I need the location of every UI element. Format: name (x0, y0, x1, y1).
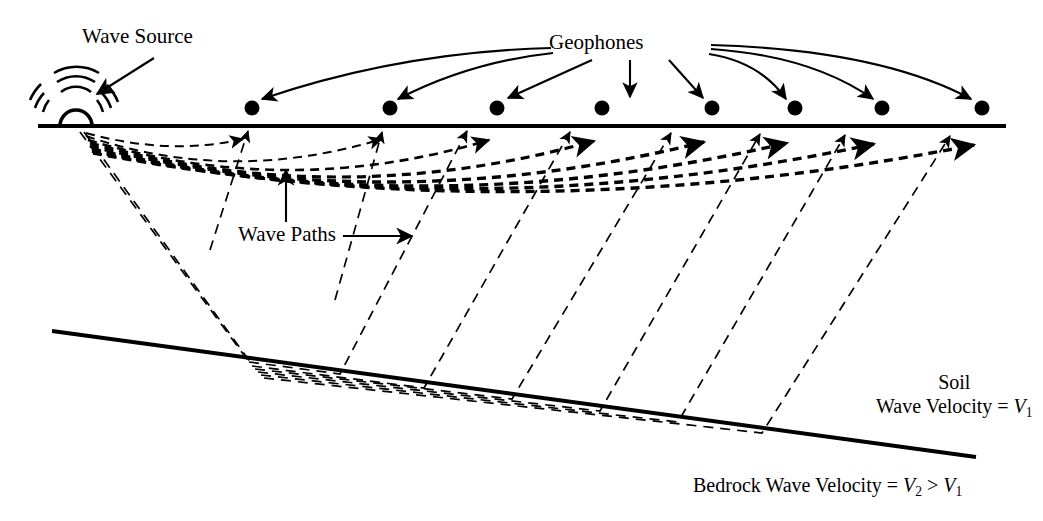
direct-wave-path (86, 133, 243, 146)
soil-velocity-text: Wave Velocity = (876, 395, 1014, 417)
geophone-dot (875, 101, 890, 116)
wave-source-icon (30, 67, 118, 126)
geophone-dot (245, 101, 260, 116)
bedrock-velocity-subscript-1: 1 (956, 484, 963, 499)
geophone-leader (711, 49, 873, 99)
wave-source-label: Wave Source (82, 24, 193, 49)
wave-paths-label: Wave Paths (238, 222, 336, 247)
geophone-dots (245, 101, 990, 116)
geophone-leader (262, 48, 551, 99)
direct-wave-paths (86, 133, 974, 192)
soil-velocity-symbol: V (1014, 395, 1026, 417)
soil-velocity-subscript: 1 (1026, 404, 1033, 419)
bedrock-velocity-text: Bedrock Wave Velocity = (693, 474, 903, 496)
geophone-dot (383, 101, 398, 116)
refracted-ray (264, 136, 950, 433)
geophone-leader (709, 54, 786, 99)
geophone-dot (975, 101, 990, 116)
soil-layer-label: Soil Wave Velocity = V1 (876, 371, 1033, 420)
bedrock-velocity-symbol-1: V (943, 474, 955, 496)
soil-velocity: Wave Velocity = V1 (876, 395, 1033, 421)
geophone-dot (705, 101, 720, 116)
geophone-leader (508, 60, 592, 98)
bedrock-layer-label: Bedrock Wave Velocity = V2 > V1 (693, 474, 962, 500)
seismic-refraction-diagram: Wave Source Geophones Wave Paths Soil Wa… (0, 0, 1043, 521)
geophone-dot (788, 101, 803, 116)
wave-source-leader (97, 58, 154, 94)
geophones-label: Geophones (549, 30, 643, 55)
refracted-ray-near (335, 132, 382, 300)
bedrock-velocity-symbol-2: V (903, 474, 915, 496)
geophone-dot (490, 101, 505, 116)
soil-name: Soil (876, 371, 1033, 395)
bedrock-relation-operator: > (922, 474, 943, 496)
refracted-ray (255, 133, 671, 399)
bedrock-velocity-subscript-2: 2 (915, 484, 922, 499)
diagram-canvas (0, 0, 1043, 521)
geophone-leader (669, 60, 703, 98)
geophone-dot (595, 101, 610, 116)
